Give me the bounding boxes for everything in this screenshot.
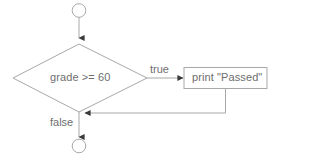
- process-node-label: print "Passed": [192, 71, 262, 83]
- edge-label-false: false: [50, 116, 73, 128]
- decision-node-label: grade >= 60: [50, 71, 110, 83]
- start-connector: [72, 4, 86, 18]
- end-connector: [72, 139, 86, 153]
- edge-label-true: true: [150, 63, 169, 75]
